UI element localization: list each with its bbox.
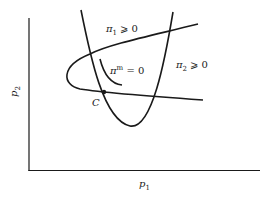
pi1-label: π1 ⩾ 0 [106, 24, 138, 37]
point-c-label: C [92, 98, 100, 108]
y-axis-label: p2 [9, 86, 22, 97]
pim-label: πm = 0 [110, 65, 144, 76]
pi2-label: π2 ⩾ 0 [176, 60, 208, 73]
x-axis-label: p1 [139, 179, 150, 192]
diagram-canvas [0, 0, 277, 201]
point-c-marker [102, 90, 106, 94]
